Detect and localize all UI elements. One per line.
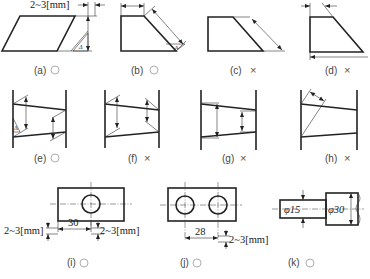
panel-label-e: (e) [34,153,46,164]
parallelogram-shape [2,16,75,51]
panel-label-i: (i) [67,257,76,268]
diameter-15: φ15 [284,204,300,215]
panel-k: φ15 φ30 (k) [272,190,364,268]
delta-symbol: Δ [78,44,83,50]
incorrect-mark-icon: × [344,64,350,76]
panel-b: Δ (b) [121,3,186,76]
trapezoid-shape [121,16,176,51]
correct-mark-icon [193,259,201,267]
spacing-dimension-30: 30 [68,217,79,228]
panel-e: Δ (e) [13,90,66,164]
panel-g: (g) × [201,90,256,164]
incorrect-mark-icon: × [344,152,350,164]
panel-j: 28 2~3[mm] (j) [160,182,269,268]
panel-label-d: (d) [325,65,337,76]
diameter-30: φ30 [328,204,345,215]
correct-mark-icon [51,66,59,74]
incorrect-mark-icon: × [240,152,246,164]
dimensioning-figure: Δ 2~3[mm] (a) Δ (b) (c) × [0,0,370,279]
panel-label-j: (j) [180,257,189,268]
incorrect-mark-icon: × [144,152,150,164]
panel-f: (f) × [105,90,159,164]
svg-text:Δ: Δ [14,125,18,131]
panel-label-c: (c) [230,65,242,76]
incorrect-mark-icon: × [250,64,256,76]
correct-mark-icon [306,259,314,267]
panel-c: (c) × [208,17,285,76]
gap-annotation-right: 2~3[mm] [100,225,140,236]
panel-label-k: (k) [288,257,300,268]
gap-annotation-left: 2~3[mm] [4,225,44,236]
correct-mark-icon [51,154,59,162]
correct-mark-icon [150,66,158,74]
gap-annotation: 2~3[mm] [229,234,269,245]
plate-shape [168,188,236,221]
panel-a: Δ 2~3[mm] (a) [2,0,105,76]
correct-mark-icon [80,259,88,267]
panel-label-a: (a) [34,65,46,76]
gap-annotation: 2~3[mm] [30,0,70,10]
panel-label-f: (f) [128,153,137,164]
spacing-dimension-28: 28 [195,226,206,237]
panel-label-g: (g) [222,153,234,164]
panel-label-h: (h) [325,153,337,164]
trapezoid-shape [310,17,363,52]
panel-i: 30 2~3[mm] 2~3[mm] (i) [4,182,140,268]
panel-d: (d) × [301,3,368,76]
panel-h: (h) × [301,89,357,164]
panel-label-b: (b) [131,65,143,76]
